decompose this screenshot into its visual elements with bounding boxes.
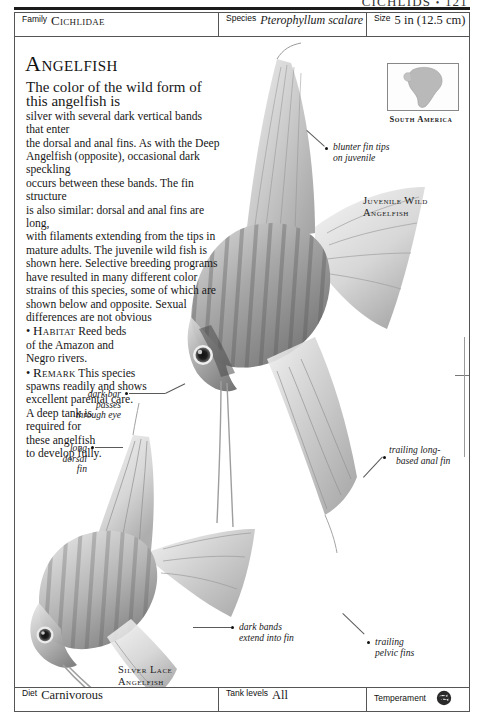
species-info-bar: Family Cichlidae Species Pterophyllum sc…	[15, 13, 469, 37]
distribution-map	[387, 63, 459, 111]
callout-line: long	[45, 443, 87, 454]
callout-trailing-anal-fin: trailing long- based anal fin	[389, 445, 450, 466]
body-line: shown here. Selective breeding programs	[26, 257, 222, 270]
body-line: have resulted in many different color	[26, 271, 222, 284]
temperament-label: Temperament	[374, 693, 426, 703]
body-line: with filaments extending from the tips i…	[26, 230, 222, 243]
callout-dot-dark-bands-fin	[231, 626, 234, 629]
body-line: occurs between these bands. The fin stru…	[26, 177, 222, 204]
family-value: Cichlidae	[51, 13, 105, 29]
callout-line: blunter fin tips	[333, 142, 390, 153]
callout-line: dark bands	[239, 622, 294, 633]
size-value: 5 in (12.5 cm)	[395, 13, 466, 28]
callout-leader-dark-bar-eye	[129, 393, 165, 394]
tank-levels-label: Tank levels	[226, 688, 268, 698]
remark-heading: Remark	[33, 365, 76, 380]
temperament-cell: Temperament	[366, 688, 469, 711]
body-line: mature adults. The juvenile wild fish is	[26, 244, 222, 257]
body-line: shown below and opposite. Sexual	[26, 298, 222, 311]
species-value: Pterophyllum scalare	[260, 13, 363, 28]
callout-trailing-pelvic-fins: trailing pelvic fins	[375, 637, 414, 658]
callout-dot-long-dorsal-fin	[91, 446, 94, 449]
header-rule	[14, 7, 470, 10]
remark-text: spawns readily and shows	[26, 380, 222, 393]
family-label: Family	[22, 14, 47, 24]
map-label-text: South America	[390, 114, 453, 124]
south-america-icon	[388, 64, 458, 110]
remark-bullet-line: • Remark This species	[26, 366, 222, 380]
diet-value: Carnivorous	[41, 688, 103, 703]
registration-tick	[455, 375, 469, 376]
body-line: Angelfish (opposite), occasional dark sp…	[26, 150, 222, 177]
caption-line: Juvenile Wild	[363, 195, 428, 207]
page-frame: Family Cichlidae Species Pterophyllum sc…	[14, 12, 470, 712]
species-label: Species	[226, 13, 256, 23]
callout-line: through eye	[61, 410, 121, 421]
callout-leader-long-dorsal-fin	[95, 447, 123, 448]
callout-blunter-fin-tips: blunter fin tips on juvenile	[333, 142, 390, 163]
callout-leader-dark-bands-fin	[193, 627, 231, 628]
registration-rule	[464, 337, 465, 457]
caption-line: Angelfish	[363, 207, 428, 219]
callout-line: based anal fin	[389, 456, 450, 467]
callout-long-dorsal-fin: long dorsal fin	[45, 443, 87, 475]
diet-label: Diet	[22, 688, 37, 698]
remark-text: This species	[78, 367, 135, 380]
bullet-marker: •	[26, 324, 30, 338]
habitat-bullet-line: • Habitat Reed beds	[26, 324, 222, 338]
family-cell: Family Cichlidae	[15, 13, 218, 36]
body-line: the dorsal and anal fins. As with the De…	[26, 137, 222, 150]
care-info-bar: Diet Carnivorous Tank levels All Tempera…	[15, 687, 469, 711]
page-title: Angelfish	[25, 51, 118, 77]
callout-line: trailing	[375, 637, 414, 648]
habitat-heading: Habitat	[33, 323, 75, 338]
callout-line: on juvenile	[333, 153, 390, 164]
remark-text: excellent parental care.	[26, 393, 222, 406]
callout-dark-bar-eye: dark bar passes through eye	[61, 389, 121, 421]
callout-line: pelvic fins	[375, 648, 414, 659]
size-label: Size	[374, 13, 391, 23]
caption-juvenile-wild-angelfish: Juvenile Wild Angelfish	[363, 195, 428, 218]
callout-dot-trailing-pelvic-fins	[367, 641, 370, 644]
size-cell: Size 5 in (12.5 cm)	[366, 13, 469, 36]
callout-dot-dark-bar-eye	[125, 392, 128, 395]
body-line: is also similar: dorsal and anal fins ar…	[26, 204, 222, 231]
body-line: silver with several dark vertical bands …	[26, 110, 222, 137]
habitat-text: Negro rivers.	[26, 352, 222, 365]
caption-silver-lace-angelfish: Silver Lace Angelfish	[118, 664, 172, 687]
tank-levels-value: All	[272, 688, 288, 703]
callout-line: trailing long-	[389, 445, 450, 456]
fish-shoal-icon	[436, 690, 452, 710]
body-line: strains of this species, some of which a…	[26, 284, 222, 297]
callout-dark-bands-fin: dark bands extend into fin	[239, 622, 294, 643]
map-label: South America	[381, 114, 461, 124]
callout-dot-blunter-fin-tips	[325, 147, 328, 150]
callout-line: dark bar	[61, 389, 121, 400]
body-line: differences are not obvious	[26, 311, 222, 324]
habitat-text: of the Amazon and	[26, 339, 222, 352]
habitat-text: Reed beds	[78, 325, 126, 338]
tank-levels-cell: Tank levels All	[218, 688, 366, 711]
species-cell: Species Pterophyllum scalare	[218, 13, 366, 36]
article-content: Angelfish The color of the wild form of …	[15, 37, 469, 687]
article-body: The color of the wild form of this angel…	[26, 81, 222, 460]
body-line: The color of the wild form of this angel…	[26, 79, 202, 109]
caption-line: Silver Lace	[118, 664, 172, 676]
diet-cell: Diet Carnivorous	[15, 688, 218, 711]
remark-text: required for	[26, 420, 110, 433]
caption-line: Angelfish	[118, 676, 172, 688]
bullet-marker: •	[26, 366, 30, 380]
callout-line: fin	[45, 464, 87, 475]
callout-line: extend into fin	[239, 633, 294, 644]
callout-dot-trailing-anal-fin	[383, 456, 386, 459]
